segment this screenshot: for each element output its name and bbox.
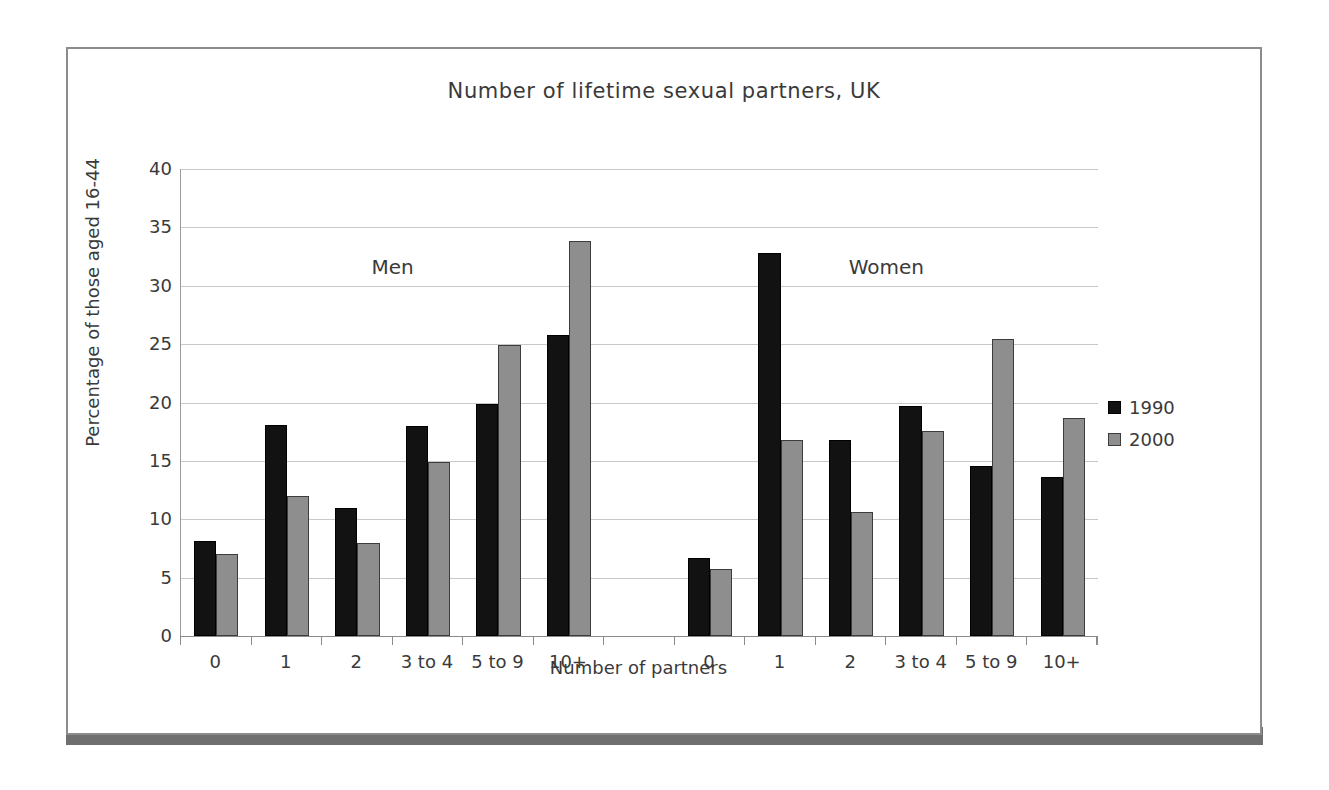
bar-women-2-2000 xyxy=(851,512,873,636)
gridline-15 xyxy=(181,461,1098,462)
x-tick-mark xyxy=(321,636,322,645)
bar-men-0-1990 xyxy=(194,541,216,636)
x-tick-mark xyxy=(462,636,463,645)
x-tick-mark xyxy=(251,636,252,645)
bar-men-1-1990 xyxy=(265,425,287,636)
chart-title: Number of lifetime sexual partners, UK xyxy=(68,79,1260,103)
bar-men-0-2000 xyxy=(216,554,238,636)
x-tick-mark xyxy=(392,636,393,645)
y-tick-label-5: 5 xyxy=(130,567,172,588)
x-tick-mark xyxy=(956,636,957,645)
y-axis-tick-labels: 0510152025303540 xyxy=(124,169,172,636)
page-frame: Number of lifetime sexual partners, UK P… xyxy=(66,47,1262,735)
group-annotation-women: Women xyxy=(849,255,924,279)
bar-women-0-1990 xyxy=(688,558,710,636)
gridline-30 xyxy=(181,286,1098,287)
gridline-35 xyxy=(181,227,1098,228)
y-tick-label-30: 30 xyxy=(130,275,172,296)
bar-women-2-1990 xyxy=(829,440,851,636)
legend-item-2000: 2000 xyxy=(1108,429,1228,449)
y-tick-label-10: 10 xyxy=(130,508,172,529)
gridline-5 xyxy=(181,578,1098,579)
bar-women-1-1990 xyxy=(758,253,780,636)
legend-item-1990: 1990 xyxy=(1108,397,1228,417)
gridline-40 xyxy=(181,169,1098,170)
x-axis-ticks xyxy=(180,636,1097,648)
bar-women-1-2000 xyxy=(781,440,803,636)
bar-women-5-to-9-1990 xyxy=(970,466,992,636)
x-tick-mark xyxy=(674,636,675,645)
bar-men-2-2000 xyxy=(357,543,379,636)
bar-men-3-to-4-1990 xyxy=(406,426,428,636)
bar-men-3-to-4-2000 xyxy=(428,462,450,636)
y-tick-label-35: 35 xyxy=(130,216,172,237)
gridline-10 xyxy=(181,519,1098,520)
legend-swatch-1990-icon xyxy=(1108,401,1121,414)
y-tick-label-40: 40 xyxy=(130,158,172,179)
x-tick-mark xyxy=(885,636,886,645)
x-tick-mark xyxy=(815,636,816,645)
gridline-20 xyxy=(181,403,1098,404)
bar-men-10+-1990 xyxy=(547,335,569,636)
x-tick-mark xyxy=(603,636,604,645)
bar-men-2-1990 xyxy=(335,508,357,636)
legend: 1990 2000 xyxy=(1108,397,1228,461)
y-tick-label-20: 20 xyxy=(130,392,172,413)
y-tick-label-15: 15 xyxy=(130,450,172,471)
plot-area: MenWomen xyxy=(180,169,1097,636)
legend-label-1990: 1990 xyxy=(1129,397,1175,418)
x-tick-mark xyxy=(180,636,181,645)
bar-women-10+-1990 xyxy=(1041,477,1063,636)
x-tick-mark xyxy=(1097,636,1098,645)
bar-men-10+-2000 xyxy=(569,241,591,636)
bar-women-3-to-4-2000 xyxy=(922,431,944,636)
bar-men-5-to-9-1990 xyxy=(476,404,498,636)
x-tick-mark xyxy=(1096,636,1097,645)
bar-women-5-to-9-2000 xyxy=(992,339,1014,636)
x-tick-mark xyxy=(1026,636,1027,645)
y-axis-title: Percentage of those aged 16-44 xyxy=(82,93,103,513)
x-tick-mark xyxy=(533,636,534,645)
legend-label-2000: 2000 xyxy=(1129,429,1175,450)
x-tick-mark xyxy=(744,636,745,645)
legend-swatch-2000-icon xyxy=(1108,433,1121,446)
y-tick-label-0: 0 xyxy=(130,625,172,646)
y-tick-label-25: 25 xyxy=(130,333,172,354)
bar-women-10+-2000 xyxy=(1063,418,1085,636)
gridline-25 xyxy=(181,344,1098,345)
bar-men-1-2000 xyxy=(287,496,309,636)
bar-women-0-2000 xyxy=(710,569,732,636)
bar-women-3-to-4-1990 xyxy=(899,406,921,636)
bar-men-5-to-9-2000 xyxy=(498,345,520,636)
group-annotation-men: Men xyxy=(371,255,413,279)
x-axis-title: Number of partners xyxy=(180,657,1097,678)
